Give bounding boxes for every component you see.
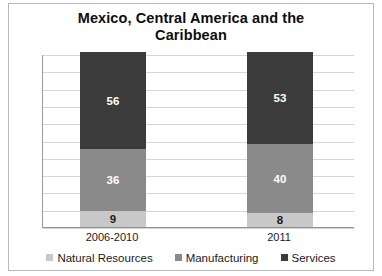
gridline xyxy=(43,228,354,229)
bar-segment-services[interactable]: 53 xyxy=(247,52,313,144)
legend-item-natural-resources[interactable]: Natural Resources xyxy=(46,252,152,264)
chart-title-line-2: Caribbean xyxy=(28,27,354,44)
bar-group-2006-2010[interactable]: 56369 xyxy=(80,52,146,227)
legend-swatch-icon xyxy=(281,254,288,261)
x-axis-label-0: 2006-2010 xyxy=(52,231,172,243)
bar-segment-services[interactable]: 56 xyxy=(80,52,146,149)
chart-title: Mexico, Central America and the Caribbea… xyxy=(28,10,354,44)
bars-layer: 56369 53408 xyxy=(43,55,354,227)
legend-label: Manufacturing xyxy=(186,252,259,264)
x-axis-label-1: 2011 xyxy=(219,231,339,243)
bar-value-label: 56 xyxy=(107,95,120,107)
x-axis-category-labels: 2006-2010 2011 xyxy=(42,231,354,247)
chart-legend: Natural ResourcesManufacturingServices xyxy=(28,252,354,264)
bar-value-label: 8 xyxy=(277,214,283,226)
legend-label: Natural Resources xyxy=(57,252,152,264)
bar-segment-manufacturing[interactable]: 40 xyxy=(247,144,313,213)
plot-area: 56369 53408 xyxy=(42,55,354,228)
bar-segment-natural-resources[interactable]: 9 xyxy=(80,211,146,227)
bar-segment-natural-resources[interactable]: 8 xyxy=(247,213,313,227)
legend-swatch-icon xyxy=(175,254,182,261)
legend-label: Services xyxy=(292,252,336,264)
bar-value-label: 40 xyxy=(274,173,287,185)
bar-value-label: 53 xyxy=(274,92,287,104)
bar-segment-manufacturing[interactable]: 36 xyxy=(80,149,146,211)
chart-title-line-1: Mexico, Central America and the xyxy=(28,10,354,27)
bar-value-label: 9 xyxy=(110,213,116,225)
bar-group-2011[interactable]: 53408 xyxy=(247,52,313,227)
bar-value-label: 36 xyxy=(107,174,120,186)
legend-item-services[interactable]: Services xyxy=(281,252,336,264)
legend-item-manufacturing[interactable]: Manufacturing xyxy=(175,252,259,264)
legend-swatch-icon xyxy=(46,254,53,261)
stacked-bar-chart-figure: Mexico, Central America and the Caribbea… xyxy=(0,0,382,276)
